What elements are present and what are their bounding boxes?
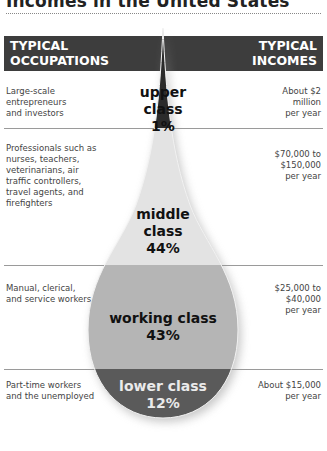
occupation-lower: Part-time workers and the unemployed [6,380,106,402]
occupation-line: Professionals such as [6,143,116,154]
income-line: $25,000 to [231,283,321,294]
class-label-line: 12% [103,395,223,412]
income-lower: About $15,000 per year [231,380,321,402]
occupation-line: and service workers [6,294,106,305]
income-line: $40,000 [231,294,321,305]
income-line: $70,000 to [231,149,321,160]
label-middle-class: middle class 44% [123,206,203,257]
income-line: per year [231,108,321,119]
class-label-line: class [123,101,203,118]
income-line: About $2 [231,86,321,97]
occupation-line: veterinarians, air [6,165,116,176]
occupation-line: Manual, clerical, [6,283,106,294]
label-upper-class: upper class 1% [123,84,203,135]
income-line: per year [231,171,321,182]
income-upper: About $2 million per year [231,86,321,119]
income-line: About $15,000 [231,380,321,391]
income-line: per year [231,305,321,316]
label-working-class: working class 43% [103,310,223,344]
occupation-line: traffic controllers, [6,176,116,187]
occupation-middle: Professionals such as nurses, teachers, … [6,143,116,209]
class-label-line: 1% [123,118,203,135]
occupation-line: Part-time workers [6,380,106,391]
class-label-line: middle [123,206,203,223]
occupation-line: firefighters [6,198,116,209]
class-label-line: 44% [123,240,203,257]
class-label-line: 43% [103,327,223,344]
income-line: million [231,97,321,108]
label-lower-class: lower class 12% [103,378,223,412]
occupation-line: Large-scale [6,86,106,97]
class-label-line: working class [103,310,223,327]
income-middle: $70,000 to $150,000 per year [231,149,321,182]
class-label-line: class [123,223,203,240]
occupation-line: and the unemployed [6,391,106,402]
occupation-upper: Large-scale entrepreneurs and investors [6,86,106,119]
occupation-line: and investors [6,108,106,119]
class-label-line: lower class [103,378,223,395]
occupation-working: Manual, clerical, and service workers [6,283,106,305]
income-line: $150,000 [231,160,321,171]
income-working: $25,000 to $40,000 per year [231,283,321,316]
occupation-line: entrepreneurs [6,97,106,108]
occupation-line: travel agents, and [6,187,116,198]
occupation-line: nurses, teachers, [6,154,116,165]
class-label-line: upper [123,84,203,101]
income-line: per year [231,391,321,402]
